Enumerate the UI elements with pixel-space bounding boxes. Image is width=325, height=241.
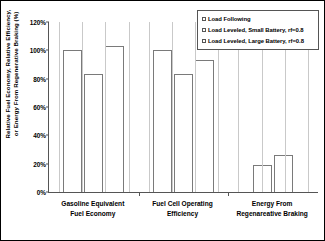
bar xyxy=(84,74,103,192)
bar xyxy=(153,50,172,192)
x-axis-category-label: Fuel Cell OperatingEfficiency xyxy=(138,199,228,218)
x-axis-category-label: Energy FromRegenareative Braking xyxy=(227,199,317,218)
legend-item-1: Load Leveled, Small Battery, rf=0.8 xyxy=(201,25,315,35)
bar xyxy=(63,50,82,192)
x-axis-tick-mark xyxy=(228,192,229,196)
y-axis-tick-mark xyxy=(46,22,49,23)
legend-swatch-icon xyxy=(202,39,206,43)
legend-swatch-icon xyxy=(202,17,206,21)
x-axis-separator xyxy=(59,22,60,192)
x-axis-category-line: Fuel Cell Operating xyxy=(138,199,228,209)
bar xyxy=(274,155,293,192)
x-axis-separator xyxy=(129,22,130,192)
legend-swatch-icon xyxy=(202,28,206,32)
x-axis-category-line: Efficiency xyxy=(138,209,228,219)
y-axis-title: Relative Fuel Economy, Relative Efficien… xyxy=(4,0,26,164)
y-axis-tick-mark xyxy=(46,107,49,108)
y-axis-tick-mark xyxy=(46,50,49,51)
x-axis-category-line: Regenareative Braking xyxy=(227,209,317,219)
y-axis-tick-label: 20% xyxy=(33,160,46,167)
legend-label: Load Following xyxy=(208,16,251,22)
y-axis-tick-label: 100% xyxy=(30,47,46,54)
y-axis-title-line1: Relative Fuel Economy, Relative Efficien… xyxy=(4,0,12,164)
y-axis-tick-label: 60% xyxy=(33,104,46,111)
x-axis-category-line: Fuel Economy xyxy=(48,209,138,219)
y-axis-tick-label: 80% xyxy=(33,75,46,82)
y-axis-title-line2: or Energy From Regenerative Braking (%) xyxy=(12,0,20,164)
bar xyxy=(195,60,214,192)
y-axis-tick-label: 0% xyxy=(37,189,46,196)
x-axis-category-line: Energy From xyxy=(227,199,317,209)
legend-item-2: Load Leveled, Large Battery, rf=0.8 xyxy=(201,36,315,46)
chart-figure: Relative Fuel Economy, Relative Efficien… xyxy=(0,0,325,241)
legend-label: Load Leveled, Large Battery, rf=0.8 xyxy=(208,38,304,44)
x-axis-separator xyxy=(82,22,83,192)
x-axis-separator xyxy=(149,22,150,192)
legend-item-0: Load Following xyxy=(201,14,315,24)
x-axis-category-line: Gasoline Equivalent xyxy=(48,199,138,209)
y-axis-tick-mark xyxy=(46,135,49,136)
x-axis-separator xyxy=(195,22,196,192)
y-axis-tick-mark xyxy=(46,78,49,79)
y-axis-tick-mark xyxy=(46,192,49,193)
x-axis-separator xyxy=(105,22,106,192)
y-axis-tick-label: 120% xyxy=(30,19,46,26)
bar xyxy=(253,165,272,192)
x-axis-category-label: Gasoline EquivalentFuel Economy xyxy=(48,199,138,218)
chart-legend: Load Following Load Leveled, Small Batte… xyxy=(197,10,319,50)
legend-label: Load Leveled, Small Battery, rf=0.8 xyxy=(208,27,304,33)
bar xyxy=(174,74,193,192)
bar xyxy=(105,46,124,192)
y-axis-tick-label: 40% xyxy=(33,132,46,139)
y-axis-tick-mark xyxy=(46,163,49,164)
x-axis-tick-mark xyxy=(139,192,140,196)
x-axis-separator xyxy=(172,22,173,192)
